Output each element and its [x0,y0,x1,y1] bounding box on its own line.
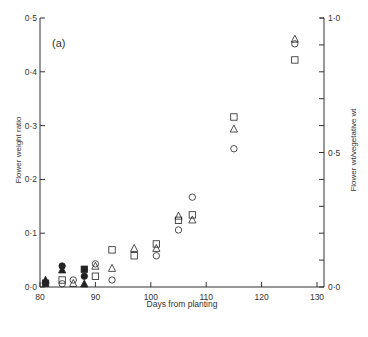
open-circle-marker [153,253,159,259]
x-tick-label: 120 [255,292,269,302]
open-square-marker [175,217,181,223]
open-circle-marker [189,194,195,200]
filled-square-marker [81,266,87,272]
open-square-marker [189,212,195,218]
x-tick-label: 80 [35,292,45,302]
y-right-tick-label: 0·0 [328,282,341,292]
data-points [42,35,299,287]
y-right-tick-label: 1·0 [328,13,341,23]
scatter-chart: 0·00·10·20·30·40·580901001101201300·00·5… [0,0,368,337]
y-tick-label: 0·3 [25,121,38,131]
filled-square-marker [42,280,48,286]
open-triangle-marker [291,35,298,42]
open-triangle-marker [175,212,182,219]
open-circle-marker [231,146,237,152]
open-triangle-marker [230,125,237,132]
axes: 0·00·10·20·30·40·580901001101201300·00·5… [25,13,341,302]
open-square-marker [231,114,237,120]
open-square-marker [131,253,137,259]
y-tick-label: 0·5 [25,13,38,23]
y-tick-label: 0·0 [25,282,38,292]
open-triangle-marker [108,264,115,271]
x-tick-label: 130 [310,292,324,302]
filled-triangle-marker [81,280,88,287]
open-square-marker [109,247,115,253]
y-right-tick-label: 0·5 [328,148,341,158]
panel-label: (a) [52,37,65,49]
y-axis-label: Flower weight ratio [14,116,23,184]
y-tick-label: 0·1 [25,228,38,238]
open-circle-marker [292,41,298,47]
y-tick-label: 0·2 [25,174,38,184]
filled-circle-marker [59,263,65,269]
open-circle-marker [59,281,65,287]
open-square-marker [292,57,298,63]
open-circle-marker [109,277,115,283]
y-right-axis-label: Flower wt/vegetative wt [349,108,358,192]
open-triangle-marker [189,216,196,223]
x-axis-label: Days from planting [147,299,218,309]
y-tick-label: 0·4 [25,67,38,77]
x-tick-label: 90 [91,292,101,302]
open-square-marker [59,277,65,283]
open-triangle-marker [153,244,160,251]
open-square-marker [92,273,98,279]
filled-circle-marker [81,273,87,279]
open-circle-marker [175,227,181,233]
open-triangle-marker [131,244,138,251]
